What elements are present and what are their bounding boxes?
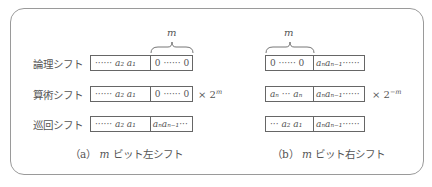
caption-right: （b） m ビット右シフト xyxy=(272,146,385,161)
right-logical-lower: aₙaₙ₋₁······ xyxy=(313,56,364,70)
brace-left-label: m xyxy=(167,27,176,38)
left-arithmetic-lower: 0 ······ 0 xyxy=(150,87,192,101)
brace-right-m xyxy=(265,40,315,54)
left-arithmetic-register: ······ a₂ a₁ 0 ······ 0 xyxy=(90,86,193,102)
left-multiplier: × 2m xyxy=(198,88,222,100)
caption-right-prefix: （b） xyxy=(272,148,299,160)
left-logical-upper: ······ a₂ a₁ xyxy=(91,56,150,70)
right-arithmetic-upper: aₙ ··· aₙ xyxy=(266,87,313,101)
caption-left-text: ビット左シフト xyxy=(110,148,183,160)
left-logical-lower: 0 ······ 0 xyxy=(150,56,192,70)
caption-right-text: ビット右シフト xyxy=(312,148,385,160)
right-rotate-upper: ··· a₂ a₁ xyxy=(266,117,313,131)
right-arithmetic-register: aₙ ··· aₙ aₙaₙ₋₁······ xyxy=(265,86,365,102)
left-rotate-register: ······ a₂ a₁ aₙaₙ₋₁··· xyxy=(90,116,193,132)
caption-left-var: m xyxy=(100,148,110,160)
brace-right-label: m xyxy=(284,27,293,38)
left-multiplier-base: × 2 xyxy=(198,89,216,100)
row-label-rotate-shift: 巡回シフト xyxy=(33,117,83,132)
right-logical-register: 0 ······ 0 aₙaₙ₋₁······ xyxy=(265,55,365,71)
caption-left: （a） m ビット左シフト xyxy=(70,146,183,161)
left-multiplier-exp: m xyxy=(216,88,222,96)
row-label-arithmetic-shift: 算術シフト xyxy=(33,87,83,102)
brace-left-m xyxy=(150,40,194,54)
caption-right-var: m xyxy=(302,148,312,160)
left-rotate-lower: aₙaₙ₋₁··· xyxy=(150,117,192,131)
right-rotate-register: ··· a₂ a₁ aₙaₙ₋₁······ xyxy=(265,116,365,132)
right-rotate-lower: aₙaₙ₋₁······ xyxy=(313,117,364,131)
left-logical-register: ······ a₂ a₁ 0 ······ 0 xyxy=(90,55,193,71)
left-arithmetic-upper: ······ a₂ a₁ xyxy=(91,87,150,101)
caption-left-prefix: （a） xyxy=(70,148,96,160)
right-arithmetic-lower: aₙaₙ₋₁······ xyxy=(313,87,364,101)
right-multiplier-exp: −m xyxy=(390,88,402,96)
row-label-logical-shift: 論理シフト xyxy=(33,56,83,71)
left-rotate-upper: ······ a₂ a₁ xyxy=(91,117,150,131)
right-multiplier: × 2−m xyxy=(372,88,402,100)
right-logical-upper: 0 ······ 0 xyxy=(266,56,313,70)
right-multiplier-base: × 2 xyxy=(372,89,390,100)
